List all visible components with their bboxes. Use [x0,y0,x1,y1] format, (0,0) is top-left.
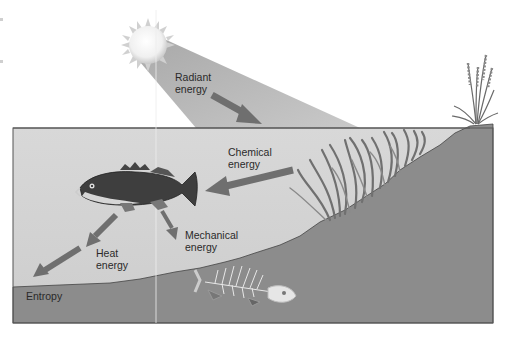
chemical-energy-label: Chemical energy [228,146,272,170]
radiant-energy-label: Radiant energy [175,71,211,95]
margin-marks [0,18,3,63]
shore-grass [452,55,498,124]
mechanical-energy-label: Mechanical energy [185,229,238,253]
heat-energy-label: Heat energy [96,247,128,271]
sun-icon [121,18,175,72]
entropy-label: Entropy [26,290,62,302]
